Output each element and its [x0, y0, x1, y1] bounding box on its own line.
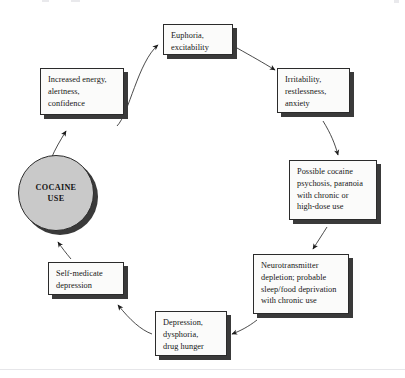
node-self-medicate[interactable]: Self-medicate depression — [48, 262, 124, 295]
node-depression[interactable]: Depression, dysphoria, drug hunger — [155, 311, 227, 356]
node-neurotransmitter-depletion-label: Neurotransmitter depletion; probable sle… — [261, 260, 341, 307]
hub-cocaine-use[interactable]: COCAINE USE — [18, 155, 94, 231]
scan-artifact-top-mid — [71, 0, 80, 2]
node-irritability-label: Irritability, restlessness, anxiety — [285, 74, 342, 109]
node-increased-energy[interactable]: Increased energy, alertness, confidence — [40, 68, 124, 115]
scan-artifact-top-right — [394, 0, 399, 3]
scan-artifact-bottom-rule — [0, 369, 405, 370]
arrow-selfmedicate-to-hub — [58, 242, 71, 259]
arrow-neurotransmitter-to-depression — [232, 320, 257, 334]
scan-artifact-top-left — [42, 0, 49, 2]
node-euphoria[interactable]: Euphoria, excitability — [163, 24, 233, 55]
arrow-depression-to-selfmedicate — [118, 305, 152, 334]
hub-label: COCAINE USE — [36, 182, 77, 204]
node-possible-cocaine-psychosis-label: Possible cocaine psychosis, paranoia wit… — [297, 166, 369, 213]
node-irritability[interactable]: Irritability, restlessness, anxiety — [277, 68, 350, 113]
node-depression-label: Depression, dysphoria, drug hunger — [163, 317, 219, 352]
diagram-canvas: COCAINE USE Euphoria, excitability Irrit… — [0, 0, 405, 378]
node-neurotransmitter-depletion[interactable]: Neurotransmitter depletion; probable sle… — [253, 254, 349, 314]
arrow-irritability-to-psychosis — [323, 121, 338, 155]
arrow-euphoria-to-irritability — [237, 48, 275, 70]
node-possible-cocaine-psychosis[interactable]: Possible cocaine psychosis, paranoia wit… — [289, 160, 377, 220]
arrow-psychosis-to-neurotransmitter — [313, 227, 327, 249]
node-euphoria-label: Euphoria, excitability — [171, 30, 225, 54]
node-increased-energy-label: Increased energy, alertness, confidence — [48, 74, 116, 109]
node-self-medicate-label: Self-medicate depression — [56, 268, 116, 292]
